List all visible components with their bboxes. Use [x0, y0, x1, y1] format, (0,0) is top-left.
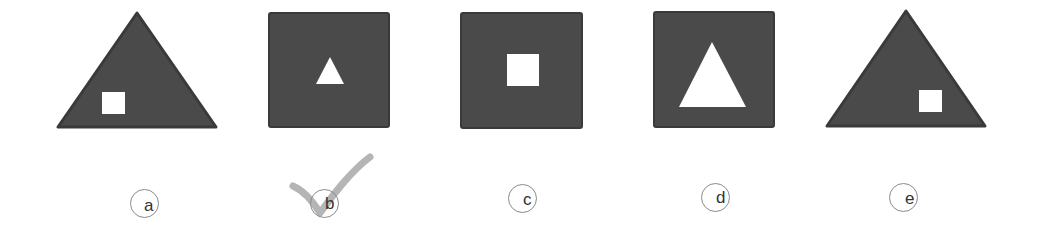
option-label: a	[144, 197, 153, 214]
option-a-shape[interactable]	[58, 13, 216, 127]
triangle-icon	[827, 11, 985, 126]
option-label: c	[523, 191, 532, 208]
option-label: d	[716, 189, 725, 206]
inner-square-icon	[507, 54, 539, 86]
option-c-shape[interactable]	[461, 13, 582, 128]
option-label: b	[325, 195, 334, 212]
option-b-shape[interactable]	[269, 13, 389, 127]
option-d[interactable]: d	[701, 183, 731, 213]
option-b[interactable]: b	[310, 189, 340, 219]
option-d-shape[interactable]	[654, 12, 774, 127]
triangle-icon	[58, 13, 216, 127]
option-a[interactable]: a	[130, 189, 160, 219]
option-e[interactable]: e	[889, 183, 919, 213]
square-icon	[919, 90, 942, 112]
option-e-shape[interactable]	[827, 11, 985, 126]
option-label: e	[905, 190, 914, 207]
square-icon	[102, 92, 125, 114]
option-c[interactable]: c	[508, 184, 538, 214]
